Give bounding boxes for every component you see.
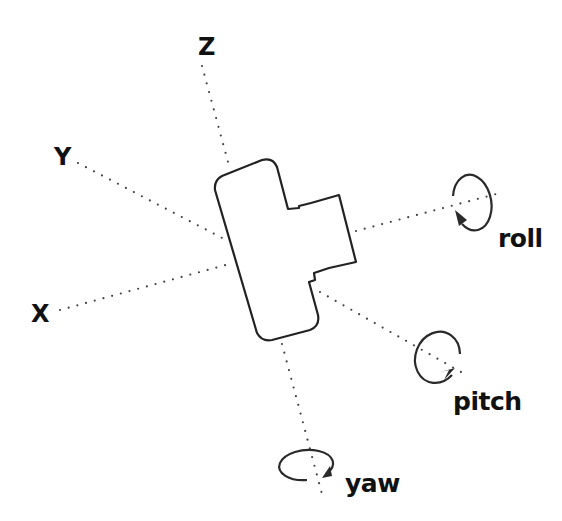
roll-rotation-icon: [453, 175, 492, 231]
device-body: [215, 159, 356, 340]
pitch-axis: [320, 292, 468, 376]
x-axis-label: X: [31, 300, 50, 328]
x-axis: [60, 263, 233, 310]
roll-label: roll: [498, 224, 543, 253]
yaw-label: yaw: [345, 469, 400, 498]
z-axis-lower: [282, 344, 322, 494]
pitch-rotation-icon: [415, 332, 460, 383]
roll-axis: [356, 193, 500, 231]
y-axis: [78, 163, 226, 240]
z-axis-upper: [202, 66, 228, 162]
pitch-label: pitch: [453, 387, 522, 416]
y-axis-label: Y: [53, 143, 72, 171]
axes-diagram: Z Y X roll pitch yaw: [0, 0, 562, 521]
z-axis-label: Z: [198, 33, 215, 61]
yaw-rotation-icon: [279, 450, 333, 480]
diagram-svg: Z Y X roll pitch yaw: [0, 0, 562, 521]
